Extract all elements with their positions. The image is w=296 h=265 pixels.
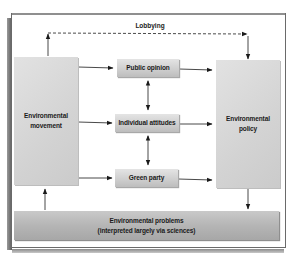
green-party-label: Green party: [129, 173, 164, 183]
public-opinion-label: Public opinion: [126, 63, 169, 73]
policy-label-line2: policy: [239, 124, 257, 134]
individual-attitudes-label: Individual attitudes: [118, 118, 175, 128]
problems-label-line1: Environmental problems: [109, 216, 183, 226]
public-opinion-box: Public opinion: [117, 59, 179, 77]
environmental-policy-box: Environmental policy: [216, 60, 280, 188]
lobbying-label: Lobbying: [128, 22, 172, 29]
lobbying-dashed-line: [48, 33, 247, 34]
environmental-problems-box: Environmental problems (interpreted larg…: [14, 211, 279, 240]
environmental-movement-box: Environmental movement: [14, 57, 78, 185]
problems-label-line2: (interpreted largely via sciences): [98, 226, 196, 236]
movement-label-line1: Environmental: [24, 111, 68, 121]
policy-label-line1: Environmental: [226, 114, 270, 124]
movement-label-line2: movement: [30, 121, 62, 131]
individual-attitudes-box: Individual attitudes: [115, 114, 179, 132]
green-party-box: Green party: [115, 169, 178, 187]
